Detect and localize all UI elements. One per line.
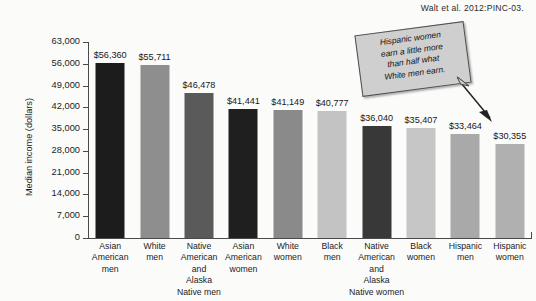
y-tick-label: 56,000 bbox=[4, 58, 80, 68]
bar-value-label: $56,360 bbox=[94, 50, 127, 60]
bar-value-label: $40,777 bbox=[316, 98, 349, 108]
y-tick-label: 63,000 bbox=[4, 36, 80, 46]
bar bbox=[96, 63, 125, 238]
bar-group: $46,478 bbox=[177, 42, 221, 238]
bar-group: $41,149 bbox=[266, 42, 310, 238]
bar bbox=[229, 109, 258, 238]
y-tick-label: 35,000 bbox=[4, 123, 80, 133]
x-category-label-line: Native women bbox=[348, 287, 404, 298]
bar-value-label: $41,441 bbox=[227, 96, 260, 106]
bar bbox=[451, 134, 480, 238]
x-category-label-line: Alaska bbox=[348, 275, 404, 286]
y-tick-label: 0 bbox=[4, 232, 80, 242]
y-tick-label: 28,000 bbox=[4, 145, 80, 155]
bar-value-label: $41,149 bbox=[271, 97, 304, 107]
y-tick-label: 49,000 bbox=[4, 80, 80, 90]
x-category-label-line: and bbox=[348, 264, 404, 275]
x-category-label-line: Hispanic bbox=[482, 241, 536, 252]
y-tick-label: 42,000 bbox=[4, 101, 80, 111]
x-category-label: Hispanicwomen bbox=[482, 241, 536, 264]
bar bbox=[273, 110, 302, 238]
x-axis-category-labels: AsianAmericanmenWhitemenNativeAmericanan… bbox=[88, 241, 532, 301]
bar bbox=[406, 128, 435, 238]
bar-value-label: $46,478 bbox=[183, 80, 216, 90]
x-category-label-line: women bbox=[482, 252, 536, 263]
bar-value-label: $36,040 bbox=[360, 113, 393, 123]
source-citation: Walt et al. 2012:PINC-03. bbox=[421, 3, 524, 13]
y-axis-ticks: 63,00056,00049,00042,00035,00028,00021,0… bbox=[0, 0, 80, 301]
bar bbox=[140, 65, 169, 238]
x-category-label-line: Native men bbox=[171, 287, 227, 298]
bar bbox=[362, 126, 391, 238]
y-tick-label: 14,000 bbox=[4, 188, 80, 198]
y-tick-label: 21,000 bbox=[4, 167, 80, 177]
y-tick-label: 7,000 bbox=[4, 210, 80, 220]
bar bbox=[495, 144, 524, 238]
bar-chart-figure: Walt et al. 2012:PINC-03. Median income … bbox=[0, 0, 536, 301]
x-category-label-line: women bbox=[215, 264, 271, 275]
callout-tail-icon bbox=[457, 75, 470, 88]
bar-value-label: $35,407 bbox=[405, 115, 438, 125]
bar-group: $40,777 bbox=[310, 42, 354, 238]
bar-value-label: $55,711 bbox=[138, 52, 170, 62]
bar-group: $56,360 bbox=[88, 42, 132, 238]
bar-group: $41,441 bbox=[221, 42, 265, 238]
bar-value-label: $30,355 bbox=[493, 131, 526, 141]
bar bbox=[318, 111, 347, 238]
bar-group: $55,711 bbox=[132, 42, 176, 238]
bar bbox=[184, 93, 213, 238]
x-axis-line bbox=[88, 238, 532, 239]
x-category-label-line: Alaska bbox=[171, 275, 227, 286]
x-category-label-line: men bbox=[82, 264, 138, 275]
